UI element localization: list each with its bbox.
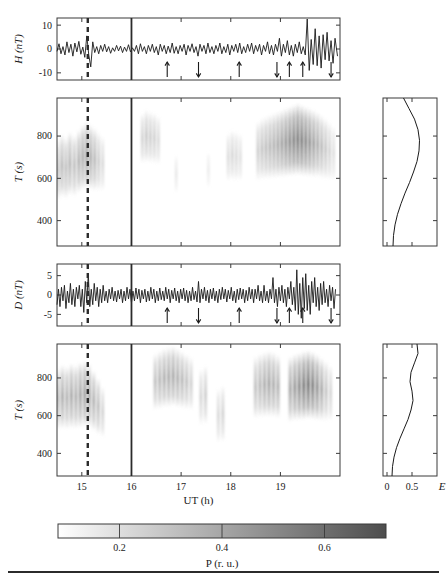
x-tick-label: 18 — [226, 481, 236, 492]
spectral-band — [68, 132, 71, 195]
figure-background — [0, 0, 447, 581]
spectral-band — [149, 111, 152, 163]
y-tick-label: 400 — [37, 215, 52, 226]
spectral-band — [83, 361, 86, 427]
t-axis-label-bottom: T (s) — [12, 400, 25, 421]
spectral-band — [328, 122, 331, 180]
spectral-band — [284, 108, 287, 177]
spectral-band — [227, 133, 230, 182]
spectral-band — [276, 111, 279, 178]
ut-axis-label: UT (h) — [183, 494, 213, 507]
y-tick-label: 10 — [42, 20, 52, 31]
spectral-band — [269, 114, 272, 178]
spectral-band — [154, 353, 157, 410]
spectral-band — [190, 357, 193, 410]
spectral-band — [293, 354, 296, 421]
spectral-band — [300, 105, 303, 176]
spectral-band — [272, 352, 275, 417]
spectral-band — [93, 128, 96, 191]
spectral-band — [320, 115, 323, 178]
spectral-band — [265, 116, 268, 179]
spectral-band — [176, 348, 179, 407]
spectral-band — [73, 135, 76, 196]
y-tick-label: 0 — [47, 289, 52, 300]
spectral-band — [276, 355, 279, 418]
spectral-band — [257, 121, 260, 180]
spectral-band — [158, 351, 161, 409]
spectral-band — [204, 366, 207, 424]
y-tick-label: 400 — [37, 448, 52, 459]
spectral-band — [61, 365, 64, 429]
spectral-band — [171, 346, 174, 406]
spectral-band — [207, 152, 209, 188]
spectral-band — [221, 385, 224, 442]
figure-container: 100-10H (nT) 800600400T (s) 50-5D (nT) 1… — [0, 0, 447, 581]
spectral-band — [325, 361, 328, 421]
spectral-band — [77, 130, 80, 193]
spectral-band — [324, 118, 327, 179]
spectral-band — [60, 134, 63, 197]
x-tick-label: 0.5 — [406, 481, 419, 492]
spectral-band — [79, 362, 82, 428]
spectral-band — [292, 105, 295, 176]
spectral-band — [185, 354, 188, 410]
colorbar-tick-label: 0.6 — [318, 542, 331, 553]
spectral-band — [64, 137, 67, 198]
spectral-band — [320, 358, 323, 421]
spectral-band — [289, 356, 292, 422]
y-tick-label: 0 — [47, 43, 52, 54]
x-tick-label: 16 — [126, 481, 136, 492]
spectral-band — [153, 113, 156, 164]
spectral-band — [261, 118, 264, 179]
spectral-band — [296, 103, 299, 175]
spectral-band — [167, 347, 170, 407]
spectral-band — [92, 370, 95, 430]
x-tick-label: 0 — [385, 481, 390, 492]
y-tick-label: 600 — [37, 173, 52, 184]
spectral-band — [254, 356, 257, 418]
spectral-band — [306, 350, 309, 419]
e-axis-label: E — [438, 480, 446, 492]
x-tick-label: 15 — [77, 481, 87, 492]
y-tick-label: 800 — [37, 130, 52, 141]
scientific-figure: 100-10H (nT) 800600400T (s) 50-5D (nT) 1… — [0, 0, 447, 581]
x-tick-label: 19 — [275, 481, 285, 492]
spectral-band — [141, 113, 144, 164]
spectral-band — [65, 366, 68, 429]
spectral-band — [239, 133, 242, 181]
spectral-band — [329, 365, 332, 422]
spectral-band — [258, 353, 261, 417]
spectral-band — [199, 369, 202, 426]
spectral-band — [298, 352, 301, 420]
spectral-band — [157, 116, 160, 165]
spectral-band — [101, 386, 104, 437]
y-tick-label: -5 — [44, 309, 52, 320]
spectral-band — [304, 106, 307, 176]
spectral-band — [145, 110, 148, 163]
spectral-band — [280, 110, 283, 178]
y-tick-label: 5 — [47, 270, 52, 281]
spectral-band — [235, 131, 238, 181]
colorbar-tick-label: 0.2 — [113, 542, 126, 553]
spectral-band — [288, 106, 291, 176]
spectral-band — [180, 351, 183, 409]
spectral-band — [81, 124, 84, 190]
spectral-band — [97, 132, 100, 191]
spectral-band — [332, 125, 335, 180]
spectral-band — [217, 388, 220, 443]
spectral-band — [70, 363, 73, 428]
t-axis-label-top: T (s) — [12, 162, 25, 183]
d-axis-label: D (nT) — [12, 280, 25, 311]
y-tick-label: 600 — [37, 410, 52, 421]
spectral-band — [175, 155, 177, 193]
colorbar-label: P (r. u.) — [206, 557, 239, 570]
spectral-band — [231, 130, 234, 181]
h-axis-label: H (nT) — [12, 34, 25, 65]
x-tick-label: 17 — [176, 481, 186, 492]
spectral-band — [302, 351, 305, 420]
spectral-band — [312, 110, 315, 178]
spectral-band — [74, 365, 77, 429]
spectral-band — [272, 113, 275, 179]
y-tick-label: 800 — [37, 372, 52, 383]
spectral-band — [315, 354, 318, 420]
